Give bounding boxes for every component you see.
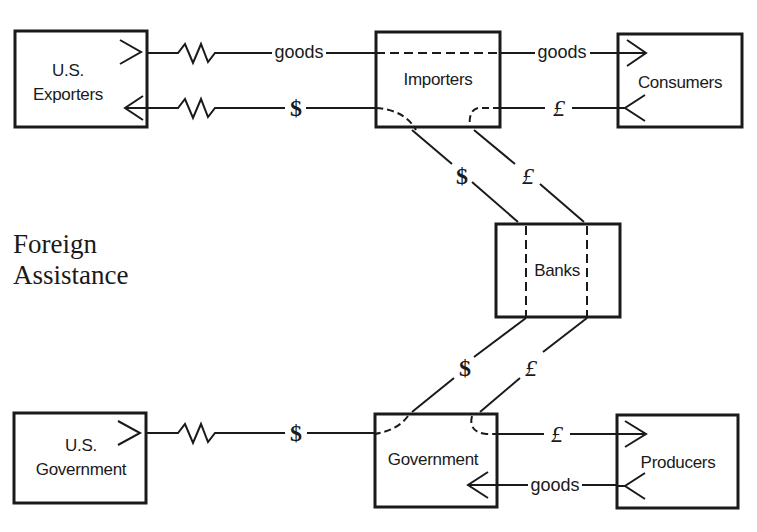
pound-label-bottom-right: £ <box>551 421 564 447</box>
goods-label-bottom-right: goods <box>530 475 579 495</box>
dollar-label-banks-government: $ <box>459 355 471 381</box>
flow-pound-government-producers <box>497 421 646 447</box>
goods-label-top-left: goods <box>274 42 323 62</box>
flow-dollar-usgov-government <box>118 421 375 445</box>
importers-label: Importers <box>403 70 472 89</box>
pound-label-banks-government: £ <box>525 355 538 381</box>
banks-label: Banks <box>534 261 580 280</box>
flow-pound-consumers-importers <box>500 95 645 121</box>
foreign-assistance-diagram: U.S. Exporters Importers Consumers Banks… <box>0 0 757 532</box>
producers-label: Producers <box>641 453 716 472</box>
dollar-label-top-left: $ <box>290 95 302 121</box>
dollar-label-importers-banks: $ <box>456 163 468 189</box>
us-exporters-label-line1: U.S. <box>52 61 84 80</box>
pound-label-importers-banks: £ <box>522 163 535 189</box>
pound-label-top-right: £ <box>553 95 566 121</box>
flow-dollar-importers-exporters <box>125 96 376 120</box>
diagram-title-line1: Foreign <box>13 229 97 259</box>
us-government-label-line1: U.S. <box>65 436 97 455</box>
us-exporters-label-line2: Exporters <box>33 85 103 104</box>
goods-label-top-right: goods <box>537 42 586 62</box>
dollar-label-bottom-left: $ <box>290 420 302 446</box>
us-government-label-line2: Government <box>36 460 127 479</box>
diagram-title-line2: Assistance <box>13 260 128 290</box>
consumers-label: Consumers <box>638 73 722 92</box>
government-label: Government <box>388 450 479 469</box>
